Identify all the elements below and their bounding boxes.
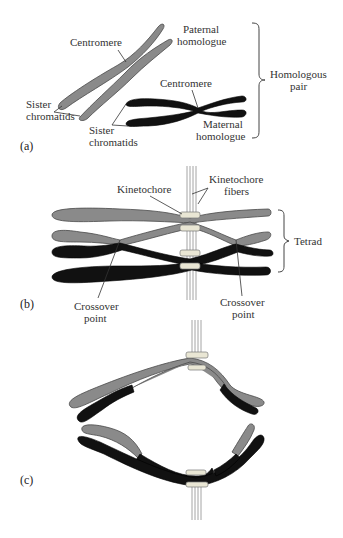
centromere-leader-paternal	[118, 50, 126, 62]
label-tetrad: Tetrad	[294, 235, 322, 247]
label-crossover-right-line1: Crossover	[220, 296, 265, 308]
upper-fibers	[192, 320, 201, 355]
label-sister-paternal-line1: Sister	[26, 98, 51, 110]
label-crossover-right-line2: point	[232, 308, 255, 320]
label-fibers-line1: Kinetochore	[209, 173, 263, 185]
kinetochore-lower-a	[186, 470, 206, 475]
chromatid-maternal-1	[52, 243, 273, 266]
kinetochore-upper-b	[188, 365, 206, 370]
label-paternal-line2: homologue	[177, 35, 227, 47]
meiosis-diagram: Centromere Paternal homologue Centromere…	[0, 0, 343, 538]
lower-fibers	[192, 484, 201, 520]
chromatid-paternal-1	[52, 208, 271, 223]
panel-a: Centromere Paternal homologue Centromere…	[20, 23, 327, 153]
panel-label-b: (b)	[20, 297, 34, 311]
panel-c: (c)	[20, 320, 264, 520]
kinetochore-bottom-upper	[180, 250, 200, 256]
homologous-pair-brace	[252, 23, 265, 138]
label-homologous-line2: pair	[290, 80, 307, 92]
chromatid-maternal-2	[52, 262, 271, 283]
label-centromere-maternal: Centromere	[160, 77, 212, 89]
label-fibers-line2: fibers	[224, 185, 249, 197]
kinetochore-top-lower	[180, 225, 200, 231]
label-maternal-line1: Maternal	[203, 118, 243, 130]
centromere-leader-maternal	[192, 90, 198, 108]
label-sister-paternal-line2: chromatids	[26, 110, 75, 122]
kinetochore-bottom-lower	[180, 263, 200, 269]
label-homologous-line1: Homologous	[270, 68, 327, 80]
label-maternal-line2: homologue	[196, 130, 246, 142]
tetrad-brace	[278, 210, 289, 272]
kinetochore-fibers	[187, 166, 196, 300]
chromatid-paternal-2	[52, 222, 271, 246]
panel-label-c: (c)	[20, 473, 33, 487]
sister-leader-maternal	[112, 104, 128, 126]
label-sister-maternal-line2: chromatids	[89, 136, 138, 148]
label-crossover-left-line2: point	[84, 312, 107, 324]
label-centromere-paternal: Centromere	[70, 36, 122, 48]
label-sister-maternal-line1: Sister	[89, 124, 114, 136]
label-paternal-line1: Paternal	[183, 23, 219, 35]
label-kinetochore: Kinetochore	[117, 183, 171, 195]
label-crossover-left-line1: Crossover	[74, 300, 119, 312]
fibers-leader	[192, 188, 208, 204]
kinetochore-upper-a	[186, 352, 208, 358]
kinetochore-top-upper	[180, 212, 200, 218]
kinetochore-lower-b	[186, 482, 208, 487]
panel-b: Kinetochore Kinetochore fibers Crossover…	[20, 166, 322, 324]
panel-label-a: (a)	[20, 139, 33, 153]
